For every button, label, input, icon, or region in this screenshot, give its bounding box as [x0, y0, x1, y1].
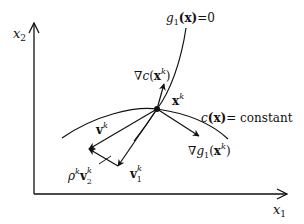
x-axis-label: x1 [273, 202, 286, 219]
v1-label: vk1 [129, 164, 142, 184]
grad-c-vector [157, 84, 164, 109]
v1-vector [118, 109, 157, 166]
grad-c-label: ∇c(xk) [134, 67, 171, 83]
contour-label: c(x)= constant [201, 111, 293, 125]
v2-label: ρkvk2 [67, 166, 92, 186]
optimization-diagram: x2 x1 g1(x)=0 c(x)= constant xk ∇c(xk) ∇… [0, 0, 304, 224]
v2-label-leader [99, 156, 111, 164]
constraint-label: g1(x)=0 [166, 11, 215, 27]
v2-vector [89, 149, 118, 166]
point-xk [154, 106, 160, 112]
grad-g1-label: ∇g1(xk) [188, 142, 231, 160]
point-xk-label: xk [172, 92, 184, 108]
constraint-curve-g1 [134, 28, 186, 141]
y-axis-label: x2 [13, 26, 26, 43]
v-label: vk [95, 121, 108, 137]
